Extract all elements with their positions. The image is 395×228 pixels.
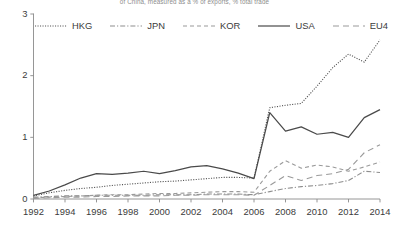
y-tick-label: 1	[14, 132, 28, 142]
x-tick-label: 1992	[17, 206, 51, 217]
series-line-jpn	[34, 171, 381, 197]
x-tick-label: 2008	[269, 206, 303, 217]
x-tick-label: 2012	[332, 206, 366, 217]
y-tick-label: 3	[14, 9, 28, 19]
x-tick-label: 1996	[80, 206, 114, 217]
x-tick-label: 1994	[48, 206, 82, 217]
x-tick-label: 1998	[111, 206, 145, 217]
y-tick-label: 0	[14, 194, 28, 204]
x-tick-label: 2000	[143, 206, 177, 217]
x-tick-label: 2002	[174, 206, 208, 217]
series-line-eu4	[34, 145, 381, 199]
series-line-usa	[34, 110, 381, 196]
series-line-hkg	[34, 40, 381, 196]
x-tick-label: 2010	[300, 206, 334, 217]
x-tick-label: 2004	[206, 206, 240, 217]
x-tick-label: 2014	[363, 206, 395, 217]
y-tick-label: 2	[14, 70, 28, 80]
x-tick-label: 2006	[237, 206, 271, 217]
